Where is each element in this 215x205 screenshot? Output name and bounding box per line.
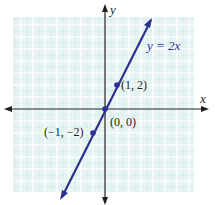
x-axis-left-arrow-icon (4, 106, 12, 112)
point-label-neg1-neg2: (−1, −2) (44, 125, 84, 139)
y-axis-up-arrow-icon (102, 4, 108, 12)
point-label-1-2: (1, 2) (121, 78, 147, 92)
y-axis-down-arrow-icon (102, 197, 108, 205)
coordinate-plane: y x y = 2x (1, 2) (0, 0) (−1, −2) (0, 0, 215, 205)
point-0-0 (102, 106, 108, 112)
point-label-0-0: (0, 0) (110, 115, 136, 129)
equation-label: y = 2x (145, 38, 181, 53)
y-axis-label: y (108, 2, 116, 17)
point-1-2 (114, 82, 120, 88)
point-neg1-neg2 (90, 130, 96, 136)
x-axis-right-arrow-icon (201, 106, 209, 112)
x-axis-label: x (199, 91, 206, 106)
